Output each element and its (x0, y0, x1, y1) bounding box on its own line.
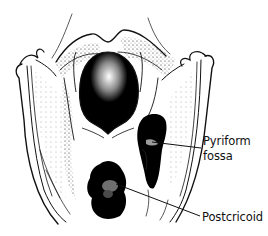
postcricoid-lesion (87, 161, 126, 219)
postcricoid-label: Postcricoid (202, 211, 263, 224)
pyriform-label-line2: fossa (203, 150, 233, 163)
laryngeal-inlet (74, 52, 143, 138)
pyriform-label-line1: Pyriform (203, 135, 251, 148)
hypopharynx-illustration (0, 0, 268, 236)
pyriform-fossa-lesion (137, 114, 166, 189)
anatomy-figure: Pyriform fossa Postcricoid (0, 0, 268, 236)
